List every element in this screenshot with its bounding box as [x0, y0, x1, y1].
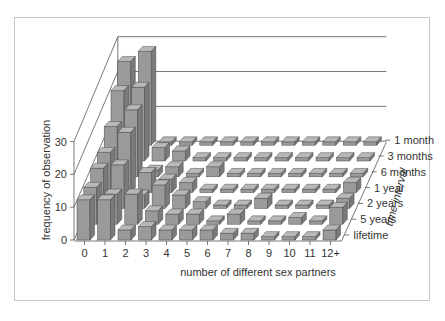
bar-front-face [173, 151, 186, 161]
bar-front-face [159, 230, 172, 240]
bar-front-face [350, 173, 363, 176]
bar [234, 153, 252, 161]
bar-front-face [207, 167, 220, 177]
bar-front-face [255, 198, 268, 208]
x-axis-label: number of different sex partners [180, 266, 336, 278]
bar-front-face [282, 237, 295, 240]
bar-front-face [227, 173, 240, 176]
chart-bars [77, 46, 381, 240]
bar [241, 137, 258, 145]
bar [152, 143, 170, 161]
bar [214, 153, 232, 161]
bar-front-face [220, 142, 233, 145]
bar [207, 162, 225, 177]
bar [302, 137, 320, 145]
bar-front-face [200, 142, 213, 145]
bar [323, 184, 341, 192]
bar [200, 184, 218, 192]
bar-front-face [193, 158, 206, 161]
bar [296, 200, 314, 208]
bar [227, 168, 245, 176]
bar-front-face [180, 230, 193, 240]
bar [255, 153, 273, 161]
bar [343, 137, 361, 145]
bar-front-face [241, 142, 254, 145]
bar [166, 209, 184, 224]
bar-side-face [111, 195, 116, 240]
z-tick-label: 1 month [394, 134, 434, 146]
bar [193, 153, 211, 161]
bar-front-face [289, 218, 302, 225]
bar-front-face [316, 158, 329, 161]
bar-front-face [166, 214, 179, 224]
x-tick-label: 11 [304, 247, 315, 259]
x-tick-label: 12+ [321, 247, 340, 259]
y-tick-label: 0 [61, 234, 67, 246]
bar [180, 225, 198, 240]
bar-front-face [302, 142, 315, 145]
bar-front-face [262, 237, 275, 240]
bar [302, 184, 320, 192]
bar [262, 232, 280, 240]
x-tick-label: 3 [143, 247, 149, 259]
bar-front-face [77, 200, 90, 240]
bar-side-face [138, 105, 143, 177]
bar-front-face [173, 195, 186, 208]
bar [282, 184, 300, 192]
bar-front-face [309, 221, 322, 224]
bar-front-face [98, 200, 111, 240]
bar-side-face [145, 82, 150, 161]
bar [77, 195, 95, 240]
bar [214, 200, 232, 208]
bar-front-face [220, 189, 233, 192]
bar [296, 153, 314, 161]
bar [350, 168, 368, 176]
bar-side-face [90, 195, 95, 240]
bar [323, 225, 341, 240]
bar-front-face [139, 227, 152, 240]
x-tick-label: 8 [245, 247, 251, 259]
bar [275, 200, 293, 208]
y-tick-label: 20 [55, 168, 67, 180]
bar [241, 228, 259, 240]
bar [179, 137, 197, 145]
x-tick-label: 10 [283, 247, 295, 259]
bar-front-face [303, 237, 316, 240]
bar-side-face [165, 180, 170, 208]
bar [139, 222, 157, 240]
bar [207, 216, 225, 224]
bar [303, 232, 321, 240]
bar-front-face [337, 158, 350, 161]
bar-front-face [248, 173, 261, 176]
bar [316, 153, 334, 161]
bar [275, 153, 293, 161]
bar [200, 225, 218, 240]
bar-front-face [268, 221, 281, 224]
bar-front-face [275, 205, 288, 208]
bar [186, 168, 204, 176]
bar-front-face [241, 233, 254, 240]
bar [186, 209, 204, 224]
bar-front-face [221, 233, 234, 240]
y-tick-label: 10 [55, 201, 67, 213]
bar-front-face [234, 158, 247, 161]
x-tick-label: 5 [184, 247, 190, 259]
bar-front-face [357, 158, 370, 161]
bar-front-face [186, 173, 199, 176]
x-tick-label: 6 [204, 247, 210, 259]
bar3d-chart: 01020300123456789101112+lifetime5 years2… [0, 0, 445, 321]
bar [234, 200, 252, 208]
bar [309, 216, 327, 224]
bar [261, 184, 279, 192]
x-tick-label: 4 [163, 247, 169, 259]
bar [282, 137, 300, 145]
bar-front-face [296, 158, 309, 161]
bar-front-face [227, 214, 240, 224]
bar-side-face [138, 189, 143, 224]
bar-front-face [234, 205, 247, 208]
bar [98, 195, 116, 240]
bar-front-face [316, 205, 329, 208]
bar-front-face [309, 173, 322, 176]
bar-front-face [241, 189, 254, 192]
bar-front-face [343, 183, 356, 193]
